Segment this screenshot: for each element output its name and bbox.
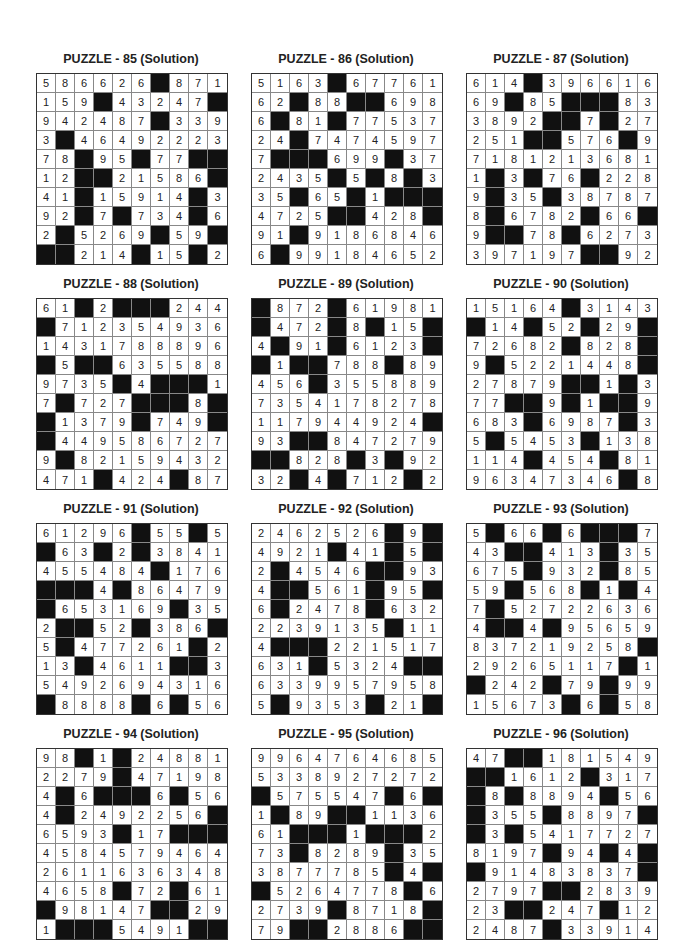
black-cell bbox=[94, 169, 113, 188]
number-cell: 9 bbox=[75, 676, 94, 695]
number-cell: 8 bbox=[581, 337, 600, 356]
number-cell: 4 bbox=[467, 749, 486, 768]
number-cell: 2 bbox=[423, 470, 442, 489]
number-cell: 1 bbox=[170, 638, 189, 657]
number-cell: 7 bbox=[75, 768, 94, 787]
number-cell: 1 bbox=[170, 920, 189, 939]
black-cell bbox=[505, 581, 524, 600]
number-cell: 5 bbox=[309, 581, 328, 600]
number-cell: 8 bbox=[619, 150, 638, 169]
number-cell: 9 bbox=[151, 920, 170, 939]
black-cell bbox=[37, 432, 56, 451]
black-cell bbox=[309, 825, 328, 844]
number-cell: 4 bbox=[543, 451, 562, 470]
number-cell: 2 bbox=[252, 131, 271, 150]
puzzle-block: PUZZLE - 87 (Solution)614396616698583389… bbox=[466, 50, 656, 265]
black-cell bbox=[151, 112, 170, 131]
number-cell: 6 bbox=[290, 74, 309, 93]
black-cell bbox=[404, 657, 423, 676]
black-cell bbox=[385, 844, 404, 863]
number-cell: 9 bbox=[619, 676, 638, 695]
number-cell: 9 bbox=[290, 695, 309, 714]
number-cell: 1 bbox=[600, 375, 619, 394]
black-cell bbox=[423, 413, 442, 432]
number-cell: 1 bbox=[366, 543, 385, 562]
number-cell: 5 bbox=[385, 131, 404, 150]
black-cell bbox=[385, 562, 404, 581]
puzzle-title: PUZZLE - 86 (Solution) bbox=[251, 50, 441, 68]
black-cell bbox=[404, 188, 423, 207]
number-cell: 5 bbox=[486, 131, 505, 150]
black-cell bbox=[132, 787, 151, 806]
number-cell: 3 bbox=[170, 112, 189, 131]
black-cell bbox=[486, 188, 505, 207]
number-cell: 2 bbox=[309, 451, 328, 470]
number-cell: 1 bbox=[524, 245, 543, 264]
number-cell: 3 bbox=[581, 920, 600, 939]
number-cell: 7 bbox=[347, 394, 366, 413]
number-cell: 7 bbox=[56, 470, 75, 489]
number-cell: 9 bbox=[328, 676, 347, 695]
black-cell bbox=[562, 695, 581, 714]
number-cell: 6 bbox=[252, 600, 271, 619]
number-cell: 1 bbox=[619, 768, 638, 787]
black-cell bbox=[423, 657, 442, 676]
number-cell: 1 bbox=[132, 825, 151, 844]
black-cell bbox=[581, 432, 600, 451]
number-cell: 1 bbox=[467, 169, 486, 188]
number-cell: 5 bbox=[404, 543, 423, 562]
black-cell bbox=[347, 188, 366, 207]
number-cell: 5 bbox=[309, 207, 328, 226]
number-cell: 1 bbox=[290, 657, 309, 676]
number-cell: 2 bbox=[486, 676, 505, 695]
number-cell: 3 bbox=[423, 562, 442, 581]
number-cell: 6 bbox=[151, 863, 170, 882]
black-cell bbox=[638, 638, 657, 657]
number-cell: 1 bbox=[638, 451, 657, 470]
number-cell: 4 bbox=[132, 562, 151, 581]
number-cell: 2 bbox=[113, 74, 132, 93]
number-cell: 5 bbox=[619, 787, 638, 806]
number-cell: 6 bbox=[467, 93, 486, 112]
number-cell: 8 bbox=[385, 169, 404, 188]
number-cell: 8 bbox=[208, 356, 227, 375]
number-cell: 2 bbox=[132, 749, 151, 768]
number-cell: 9 bbox=[94, 524, 113, 543]
number-cell: 9 bbox=[562, 844, 581, 863]
number-cell: 2 bbox=[524, 676, 543, 695]
number-cell: 2 bbox=[562, 207, 581, 226]
number-cell: 3 bbox=[467, 245, 486, 264]
black-cell bbox=[423, 318, 442, 337]
number-cell: 5 bbox=[423, 749, 442, 768]
number-cell: 8 bbox=[524, 337, 543, 356]
number-cell: 9 bbox=[404, 562, 423, 581]
number-cell: 1 bbox=[562, 543, 581, 562]
black-cell bbox=[56, 226, 75, 245]
number-cell: 3 bbox=[132, 356, 151, 375]
number-cell: 6 bbox=[385, 245, 404, 264]
black-cell bbox=[581, 768, 600, 787]
number-cell: 9 bbox=[75, 93, 94, 112]
black-cell bbox=[619, 375, 638, 394]
number-cell: 2 bbox=[309, 299, 328, 318]
number-cell: 1 bbox=[309, 112, 328, 131]
black-cell bbox=[423, 543, 442, 562]
number-cell: 8 bbox=[581, 413, 600, 432]
number-cell: 2 bbox=[524, 112, 543, 131]
number-cell: 5 bbox=[638, 543, 657, 562]
black-cell bbox=[328, 337, 347, 356]
number-cell: 1 bbox=[385, 318, 404, 337]
black-cell bbox=[423, 581, 442, 600]
black-cell bbox=[486, 432, 505, 451]
black-cell bbox=[505, 901, 524, 920]
number-cell: 7 bbox=[404, 394, 423, 413]
number-cell: 8 bbox=[113, 695, 132, 714]
number-cell: 2 bbox=[467, 882, 486, 901]
number-cell: 4 bbox=[56, 112, 75, 131]
number-cell: 7 bbox=[151, 825, 170, 844]
number-cell: 5 bbox=[562, 131, 581, 150]
number-cell: 6 bbox=[366, 524, 385, 543]
number-cell: 6 bbox=[189, 619, 208, 638]
black-cell bbox=[328, 207, 347, 226]
number-cell: 3 bbox=[189, 318, 208, 337]
